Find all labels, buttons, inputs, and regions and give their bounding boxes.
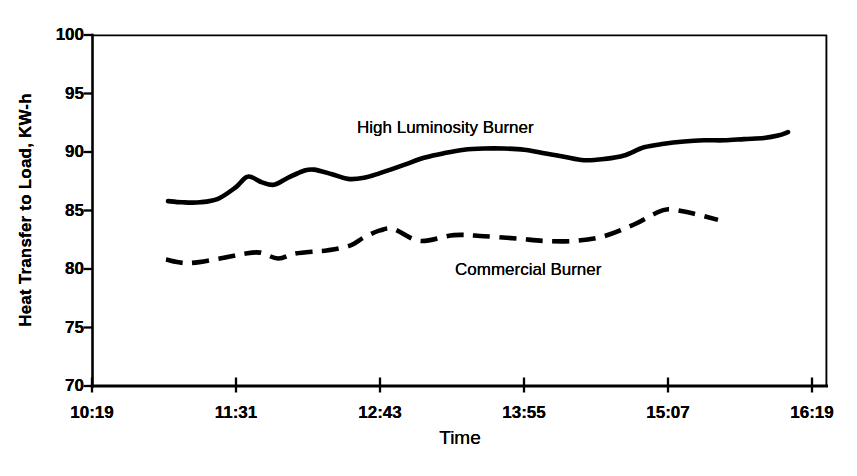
x-axis-title: Time (380, 427, 540, 449)
plot-area (0, 0, 857, 476)
chart-page: Heat Transfer to Load, KW-h 100959085807… (0, 0, 857, 476)
series-line-high-luminosity-burner (168, 132, 788, 203)
series-line-commercial-burner (166, 209, 718, 263)
series-label-high-luminosity-burner: High Luminosity Burner (357, 118, 534, 138)
series-label-commercial-burner: Commercial Burner (455, 260, 601, 280)
y-axis-title: Heat Transfer to Load, KW-h (16, 35, 36, 385)
